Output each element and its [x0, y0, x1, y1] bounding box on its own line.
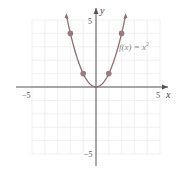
curve-arrow-icon	[123, 13, 127, 19]
x-min-label: −5	[22, 91, 31, 100]
data-point	[68, 31, 74, 37]
data-point	[106, 71, 112, 77]
y-max-label: 5	[88, 17, 92, 26]
curve-arrow-icon	[65, 13, 69, 19]
parabola-chart: −5 5 x 5 −5 y f(x) = x2	[0, 0, 177, 173]
y-axis-label: y	[99, 5, 105, 16]
y-axis-arrow-icon	[94, 8, 99, 14]
axes	[16, 8, 168, 166]
x-max-label: 5	[156, 91, 160, 100]
data-point	[80, 71, 86, 77]
y-min-label: −5	[84, 150, 93, 159]
x-axis-label: x	[165, 89, 171, 100]
function-label: f(x) = x2	[119, 41, 149, 52]
data-point	[119, 31, 125, 37]
